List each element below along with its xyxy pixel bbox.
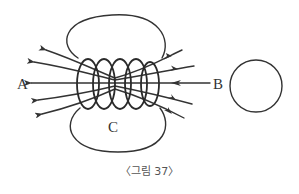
top-field-loop: [67, 15, 166, 58]
label-b: B: [213, 76, 223, 92]
conducting-ring: [230, 60, 282, 112]
figure-caption: 〈그림 37〉: [0, 162, 299, 178]
label-a: A: [17, 76, 28, 92]
right-field-lines: [115, 50, 210, 118]
label-c: C: [108, 119, 118, 135]
